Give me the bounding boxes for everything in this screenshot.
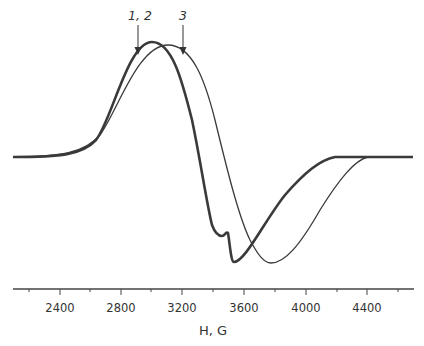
x-axis: 2400 2800 3200 3600 4000 4400 H, G <box>13 289 414 338</box>
x-tick-label: 2400 <box>45 301 74 315</box>
x-tick-label: 4000 <box>291 301 320 315</box>
x-tick-label: 3600 <box>229 301 258 315</box>
x-tick-label: 3200 <box>167 301 196 315</box>
x-tick-label: 2800 <box>106 301 135 315</box>
annotation-label-1-2: 1, 2 <box>128 8 152 23</box>
annotation-arrow-3 <box>180 25 187 55</box>
annotation-label-3: 3 <box>179 8 187 23</box>
annotation-arrow-1-2 <box>135 25 142 55</box>
series-1-2-curve <box>13 42 413 262</box>
x-tick-label: 4400 <box>352 301 381 315</box>
epr-spectrum-chart: 1, 2 3 2400 2800 3200 3600 4000 4400 H, … <box>0 0 424 346</box>
x-axis-title: H, G <box>199 323 227 338</box>
